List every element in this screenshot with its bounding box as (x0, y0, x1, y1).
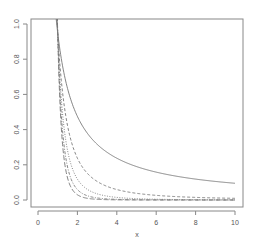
x-tick-label: 10 (231, 219, 239, 226)
x-tick-label: 0 (36, 219, 40, 226)
y-tick-label: 0.4 (13, 125, 20, 135)
line-curve-3 (47, 0, 235, 200)
x-axis-label: x (135, 231, 139, 238)
line-curve-1 (47, 0, 235, 183)
y-axis: 0.00.20.40.60.81.0 (13, 19, 27, 205)
line-curve-4 (47, 0, 235, 200)
y-tick-label: 0.6 (13, 89, 20, 99)
y-tick-label: 1.0 (13, 19, 20, 29)
plot-area (31, 19, 243, 207)
x-tick-label: 4 (115, 219, 119, 226)
x-tick-label: 8 (194, 219, 198, 226)
x-tick-label: 2 (75, 219, 79, 226)
y-tick-label: 0.2 (13, 160, 20, 170)
line-curve-5 (47, 0, 235, 200)
chart: 0246810 0.00.20.40.60.81.0 x (0, 0, 257, 248)
x-axis: 0246810 (36, 211, 239, 226)
line-curve-2 (47, 0, 235, 198)
curves (47, 0, 235, 200)
x-tick-label: 6 (154, 219, 158, 226)
y-tick-label: 0.8 (13, 54, 20, 64)
y-tick-label: 0.0 (13, 195, 20, 205)
